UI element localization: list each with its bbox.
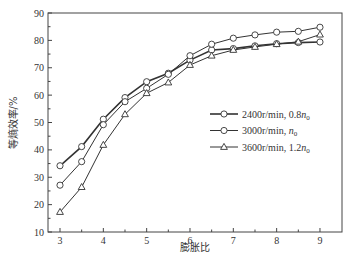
y-tick-label: 10 (34, 227, 44, 238)
circle-marker-icon (252, 32, 258, 38)
x-tick-label: 7 (231, 235, 236, 246)
legend-label: 3000r/min, n0 (242, 125, 298, 138)
circle-marker-icon (144, 79, 150, 85)
circle-marker-icon (230, 35, 236, 41)
circle-marker-icon (100, 122, 106, 128)
legend-item-0: 2400r/min, 0.8n0 (210, 109, 310, 122)
circle-marker-icon (79, 143, 85, 149)
triangle-marker-icon (78, 184, 85, 190)
circle-marker-icon (295, 28, 301, 34)
series-line-1 (57, 24, 323, 188)
y-tick-label: 70 (34, 62, 44, 73)
legend-item-1: 3000r/min, n0 (210, 125, 298, 138)
x-tick-label: 5 (144, 235, 149, 246)
triangle-marker-icon (221, 143, 228, 149)
x-tick-label: 8 (274, 235, 279, 246)
series-path (60, 27, 320, 185)
circle-marker-icon (165, 71, 171, 77)
y-tick-label: 20 (34, 199, 44, 210)
x-tick-label: 4 (101, 235, 106, 246)
legend-label: 2400r/min, 0.8n0 (242, 109, 310, 122)
circle-marker-icon (274, 29, 280, 35)
legend-label: 3600r/min, 1.2n0 (242, 142, 310, 155)
legend: 2400r/min, 0.8n03000r/min, n03600r/min, … (210, 109, 310, 155)
y-axis-label: 等熵效率/% (7, 97, 19, 150)
y-tick-label: 30 (34, 172, 44, 183)
legend-item-2: 3600r/min, 1.2n0 (210, 142, 310, 155)
triangle-marker-icon (165, 79, 172, 85)
y-tick-label: 80 (34, 35, 44, 46)
y-tick-label: 60 (34, 90, 44, 101)
y-tick-label: 90 (34, 8, 44, 19)
circle-marker-icon (221, 127, 227, 133)
circle-marker-icon (317, 39, 323, 45)
circle-marker-icon (317, 24, 323, 30)
x-axis-label: 膨胀比 (180, 241, 210, 253)
y-tick-label: 50 (34, 117, 44, 128)
circle-marker-icon (187, 53, 193, 59)
line-chart: 1020304050607080903456789 2400r/min, 0.8… (0, 0, 351, 268)
circle-marker-icon (122, 99, 128, 105)
x-tick-label: 3 (58, 235, 63, 246)
triangle-marker-icon (317, 31, 324, 37)
y-tick-label: 40 (34, 144, 44, 155)
x-tick-label: 9 (317, 235, 322, 246)
circle-marker-icon (57, 163, 63, 169)
circle-marker-icon (221, 111, 227, 117)
circle-marker-icon (79, 159, 85, 165)
circle-marker-icon (57, 182, 63, 188)
circle-marker-icon (209, 41, 215, 47)
